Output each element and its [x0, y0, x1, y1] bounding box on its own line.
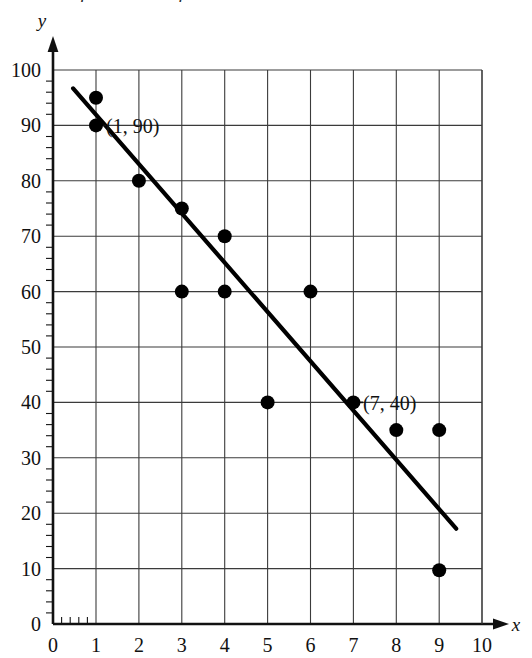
- line-of-best-fit: [73, 88, 456, 528]
- data-point: [132, 174, 146, 188]
- y-tick-label-origin: 0: [31, 613, 41, 635]
- annotation-leaders: [96, 125, 363, 402]
- clipped-header-fragment: ʃ ʃ: [80, 0, 280, 2]
- y-tick-label: 30: [21, 447, 41, 469]
- annotation-label-7-40: (7, 40): [363, 392, 416, 415]
- x-tick-label: 0: [48, 634, 58, 656]
- x-tick-label: 9: [434, 634, 444, 656]
- annotation-label-1-90: (1, 90): [106, 115, 159, 138]
- grid-lines: [53, 70, 482, 624]
- y-tick-label: 50: [21, 336, 41, 358]
- y-tick-labels: 100 90 80 70 60 50 40 30 20 10 0: [11, 59, 41, 635]
- data-point: [432, 423, 446, 437]
- data-point: [89, 118, 103, 132]
- y-tick-label: 90: [21, 114, 41, 136]
- x-tick-label: 2: [134, 634, 144, 656]
- scatter-plot-figure: ʃ ʃ: [0, 0, 532, 658]
- plot-svg: 100 90 80 70 60 50 40 30 20 10 0 0 1 2 3…: [0, 0, 532, 658]
- data-point: [346, 395, 360, 409]
- y-tick-label: 80: [21, 170, 41, 192]
- x-tick-label: 4: [220, 634, 230, 656]
- x-tick-label: 7: [348, 634, 358, 656]
- data-point: [304, 285, 318, 299]
- x-tick-label: 3: [177, 634, 187, 656]
- y-axis-label: y: [36, 10, 47, 31]
- y-tick-label: 60: [21, 281, 41, 303]
- x-tick-label: 1: [91, 634, 101, 656]
- data-point: [175, 202, 189, 216]
- data-point: [261, 395, 275, 409]
- x-tick-label: 8: [391, 634, 401, 656]
- y-tick-label: 20: [21, 502, 41, 524]
- data-point: [218, 285, 232, 299]
- x-tick-label: 5: [263, 634, 273, 656]
- x-axis-label: x: [511, 614, 521, 635]
- y-tick-label: 70: [21, 225, 41, 247]
- x-tick-label: 6: [306, 634, 316, 656]
- data-point: [218, 229, 232, 243]
- data-point: [389, 423, 403, 437]
- x-tick-labels: 0 1 2 3 4 5 6 7 8 9 10: [48, 634, 492, 656]
- y-tick-label: 10: [21, 558, 41, 580]
- y-axis-arrowhead: [48, 36, 59, 52]
- data-point: [432, 563, 446, 577]
- data-point: [89, 91, 103, 105]
- y-tick-label: 100: [11, 59, 41, 81]
- x-tick-label: 10: [472, 634, 492, 656]
- y-tick-label: 40: [21, 391, 41, 413]
- x-axis-arrowhead: [493, 619, 509, 630]
- data-point: [175, 285, 189, 299]
